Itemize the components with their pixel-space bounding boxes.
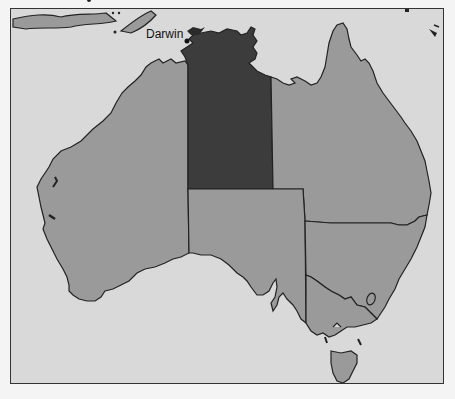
title-fragment [0,0,455,8]
title-cutoff-glyph [87,0,91,2]
islet [114,31,117,34]
islet [405,9,409,12]
islet [112,12,114,14]
darwin-marker-icon [185,39,190,44]
australia-map: Darwin [11,9,444,384]
city-label-darwin: Darwin [146,27,183,41]
map-frame: Darwin [10,8,444,384]
islet [118,12,120,14]
